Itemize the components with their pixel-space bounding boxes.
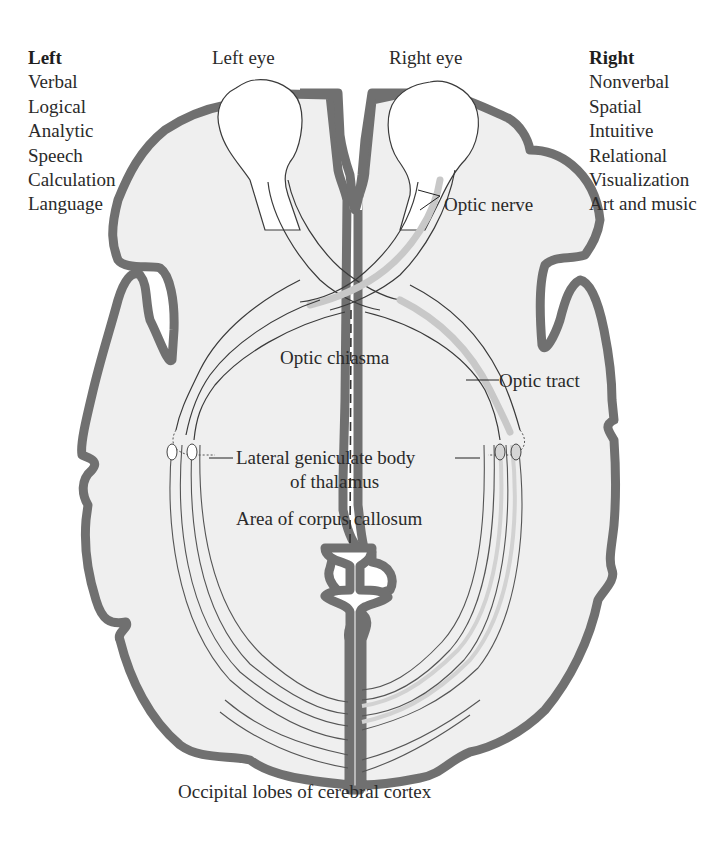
optic-chiasma-label: Optic chiasma — [280, 347, 389, 369]
corpus-callosum-label: Area of corpus callosum — [236, 508, 422, 530]
right-function-item: Relational — [589, 144, 697, 168]
right-heading: Right — [589, 46, 697, 70]
left-heading: Left — [28, 46, 116, 70]
left-function-item: Logical — [28, 95, 116, 119]
optic-nerve-label: Optic nerve — [444, 194, 533, 216]
right-function-item: Spatial — [589, 95, 697, 119]
left-hemisphere-outline — [82, 93, 363, 785]
right-eye-label: Right eye — [389, 47, 462, 69]
left-function-item: Analytic — [28, 119, 116, 143]
left-hemisphere-functions: Left Verbal Logical Analytic Speech Calc… — [28, 46, 116, 217]
occipital-lobes-label: Occipital lobes of cerebral cortex — [178, 781, 431, 803]
left-eye-label: Left eye — [212, 47, 275, 69]
right-hemisphere-functions: Right Nonverbal Spatial Intuitive Relati… — [589, 46, 697, 217]
right-function-item: Visualization — [589, 168, 697, 192]
left-function-item: Calculation — [28, 168, 116, 192]
lateral-geniculate-label: Lateral geniculate body — [236, 447, 415, 469]
right-function-item: Nonverbal — [589, 70, 697, 94]
left-function-item: Verbal — [28, 70, 116, 94]
left-function-item: Speech — [28, 144, 116, 168]
right-function-item: Art and music — [589, 192, 697, 216]
lateral-geniculate-label-line2: of thalamus — [290, 471, 379, 493]
optic-tract-label: Optic tract — [499, 370, 580, 392]
left-function-item: Language — [28, 192, 116, 216]
right-function-item: Intuitive — [589, 119, 697, 143]
